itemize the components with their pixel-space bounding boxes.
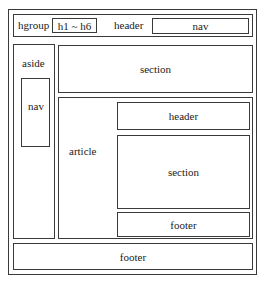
article-header-box: header — [117, 102, 250, 130]
page-footer-box: footer — [13, 243, 253, 270]
article-label: article — [69, 145, 96, 157]
h1-h6-label: h1 ~ h6 — [58, 20, 91, 32]
aside-nav-box — [21, 78, 50, 147]
page-header-label: header — [114, 19, 143, 31]
hgroup-h1-h6-box: h1 ~ h6 — [52, 18, 97, 33]
article-section-box: section — [117, 135, 250, 209]
aside-label: aside — [22, 57, 45, 69]
section-label: section — [140, 63, 171, 75]
article-footer-box: footer — [117, 212, 250, 237]
article-footer-label: footer — [170, 219, 196, 231]
page-footer-label: footer — [120, 251, 146, 263]
section-box: section — [58, 45, 253, 93]
article-section-label: section — [168, 166, 199, 178]
article-header-label: header — [169, 110, 198, 122]
hgroup-label: hgroup — [18, 19, 49, 31]
aside-nav-label: nav — [28, 100, 44, 112]
page-header-nav-label: nav — [193, 20, 209, 32]
page-header-nav-box: nav — [152, 18, 249, 34]
